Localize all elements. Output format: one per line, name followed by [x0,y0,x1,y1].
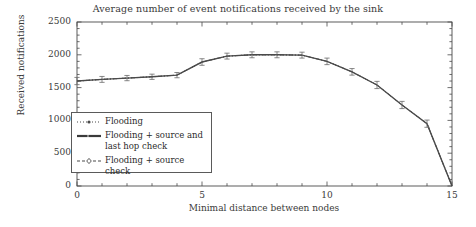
y-tick-label: 500 [37,147,71,157]
legend-line-dashdot-icon [76,156,102,166]
chart-figure: Average number of event notifications re… [0,0,476,227]
x-tick-label: 15 [440,190,464,200]
legend-label: Flooding [105,116,143,127]
y-tick-label: 2500 [37,16,71,26]
legend-line-dotted-icon [76,117,102,127]
y-tick-label: 2000 [37,49,71,59]
y-tick-label: 1500 [37,82,71,92]
legend-item-flooding-source-check: Flooding + source check [76,155,211,176]
legend-item-flooding-source-last-hop: Flooding + source and last hop check [76,130,203,151]
legend-label: Flooding + source and last hop check [105,130,203,151]
chart-legend: Flooding Flooding + source and last hop … [71,112,212,173]
legend-item-flooding: Flooding [76,116,143,127]
y-tick-label: 1000 [37,114,71,124]
x-tick-label: 0 [65,190,89,200]
legend-line-solid-icon [76,131,102,141]
x-tick-label: 5 [190,190,214,200]
y-tick-label: 0 [37,180,71,190]
legend-label: Flooding + source check [105,155,211,176]
x-tick-label: 10 [315,190,339,200]
